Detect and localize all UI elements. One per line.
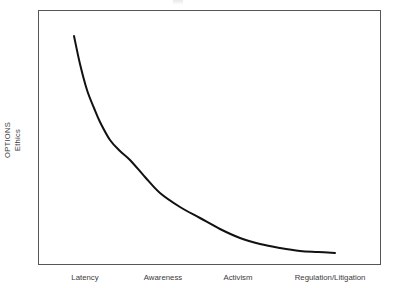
y-axis-label-ethics: Ethics — [12, 110, 24, 170]
curve-layer — [38, 10, 381, 265]
chart-figure: OPTIONS Ethics LatencyAwarenessActivismR… — [0, 0, 394, 288]
x-axis-tick-label: Activism — [223, 272, 252, 283]
x-axis-tick-label: Latency — [71, 272, 98, 283]
x-axis-labels: LatencyAwarenessActivismRegulation/Litig… — [0, 272, 394, 288]
y-axis-labels: OPTIONS Ethics — [0, 0, 36, 288]
x-axis-tick-label: Regulation/Litigation — [295, 272, 366, 283]
series-line-options-ethics — [74, 36, 335, 253]
x-axis-tick-label: Awareness — [144, 272, 182, 283]
scan-artifact — [173, 0, 183, 5]
